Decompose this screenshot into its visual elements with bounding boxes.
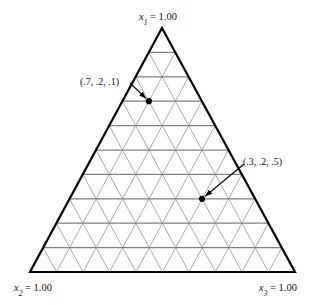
gridline-constant-x3 <box>216 199 256 272</box>
vertex-label-x1: x1 = 1.00 <box>139 12 177 25</box>
point-label-1: (.7, .2, .1) <box>80 77 119 87</box>
gridline-constant-x2 <box>70 199 110 272</box>
gridline-constant-x3 <box>163 150 229 272</box>
ternary-diagram <box>0 0 324 305</box>
gridline-constant-x3 <box>110 101 202 272</box>
gridline-constant-x2 <box>96 150 163 272</box>
vertex-x2-sub: 2 <box>19 289 23 298</box>
vertex-x3-var: x <box>259 282 264 293</box>
vertex-x2-value: = 1.00 <box>22 282 52 293</box>
vertex-x3-value: = 1.00 <box>267 282 297 293</box>
data-point-2 <box>199 196 205 202</box>
point-label-2: (.3, .2, .5) <box>243 157 282 167</box>
vertex-x1-var: x <box>139 11 144 22</box>
vertex-label-x3: x3 = 1.00 <box>259 283 297 296</box>
data-point-1 <box>146 98 152 104</box>
vertex-x1-sub: 1 <box>144 18 148 27</box>
gridline-constant-x3 <box>269 248 282 272</box>
vertex-x3-sub: 3 <box>264 289 268 298</box>
gridline-constant-x2 <box>122 101 215 272</box>
vertex-x2-var: x <box>14 282 19 293</box>
vertex-label-x2: x2 = 1.00 <box>14 283 52 296</box>
grid-horizontal-lines <box>43 52 282 247</box>
gridline-constant-x2 <box>43 248 56 272</box>
vertex-x1-value: = 1.00 <box>147 11 177 22</box>
